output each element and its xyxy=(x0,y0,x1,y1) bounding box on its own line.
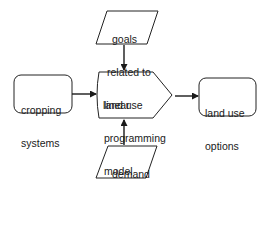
goals-label-line-2: related to xyxy=(107,67,151,78)
lp-model-label-line-1: linear xyxy=(104,100,166,111)
demand-node-label: demand for produce xyxy=(112,147,150,191)
land-use-options-label-line-2: options xyxy=(205,141,245,152)
goals-label-line-1: goals xyxy=(112,34,151,45)
demand-label-line-1: demand xyxy=(112,169,150,180)
land-use-options-node-label: land use options xyxy=(205,86,245,163)
land-use-options-label-line-1: land use xyxy=(205,108,245,119)
cropping-label-line-2: systems xyxy=(21,138,61,149)
cropping-systems-node-label: cropping systems xyxy=(21,83,61,160)
cropping-label-line-1: cropping xyxy=(21,105,61,116)
lp-model-label-line-2: programming xyxy=(104,133,166,144)
